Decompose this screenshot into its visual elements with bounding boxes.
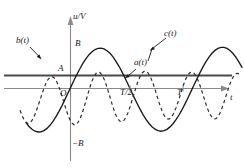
curve-label-b: b(t) — [16, 36, 29, 45]
curve-c-dashed — [20, 71, 240, 125]
leader-b — [30, 47, 42, 60]
curve-label-a: a(t) — [134, 58, 147, 67]
peak-value-label: B — [75, 39, 81, 48]
dc-level-label: A — [58, 64, 64, 73]
leader-a — [125, 69, 137, 79]
origin-label: O — [60, 89, 67, 98]
x-axis-label: t — [230, 93, 233, 102]
x-axis — [4, 86, 229, 92]
trough-value-label: −B — [72, 139, 84, 148]
y-axis-label: u/V — [73, 12, 86, 21]
leader-c — [148, 38, 166, 61]
tick-label-half-period: T/2 — [120, 88, 132, 97]
waveform-plot — [0, 0, 244, 168]
figure-container: u/V t B −B A O T/2 T b(t) a(t) c(t) — [0, 0, 244, 168]
curve-label-c: c(t) — [164, 29, 177, 38]
tick-label-period: T — [177, 88, 182, 97]
